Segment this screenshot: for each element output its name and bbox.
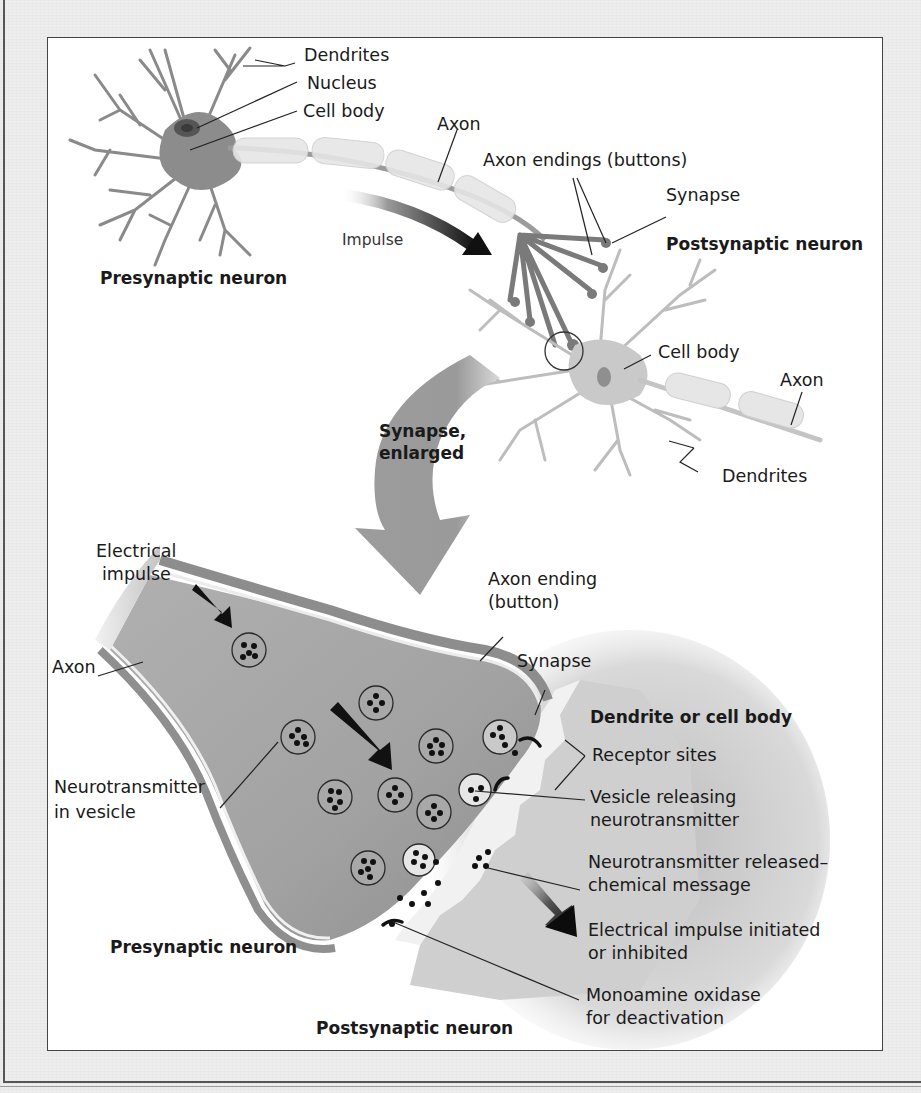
label-presynaptic-axon: Axon — [437, 114, 481, 135]
label-impulse-initiated-line1: Electrical impulse initiated — [588, 920, 820, 941]
label-synapse-top: Synapse — [666, 185, 740, 206]
label-impulse: Impulse — [342, 230, 403, 251]
label-axon-ending-line1: Axon ending — [488, 569, 597, 590]
label-nt-in-vesicle-line2: in vesicle — [54, 802, 136, 823]
label-presynaptic-dendrites: Dendrites — [304, 45, 389, 66]
label-nt-released-line2: chemical message — [588, 875, 751, 896]
label-receptor-sites: Receptor sites — [592, 745, 717, 766]
label-presynaptic-cell-body: Cell body — [303, 101, 385, 122]
label-electrical-impulse-line2: impulse — [102, 564, 171, 585]
label-vesicle-releasing-line2: neurotransmitter — [590, 810, 739, 831]
label-nt-released-line1: Neurotransmitter released– — [588, 852, 828, 873]
presynaptic-neuron-drawing — [70, 48, 250, 265]
label-postsynaptic-cell-body: Cell body — [658, 342, 740, 363]
title-presynaptic-neuron-top: Presynaptic neuron — [100, 268, 287, 289]
label-synapse-bottom: Synapse — [517, 651, 591, 672]
label-nt-in-vesicle-line1: Neurotransmitter — [54, 777, 205, 798]
label-vesicle-releasing-line1: Vesicle releasing — [590, 787, 736, 808]
synapse-enlarged-arrow-drawing — [355, 355, 500, 595]
label-presynaptic-nucleus: Nucleus — [307, 73, 377, 94]
label-postsynaptic-axon: Axon — [780, 370, 824, 391]
label-mao-line2: for deactivation — [586, 1008, 724, 1029]
axon-terminals-drawing — [510, 235, 611, 356]
label-mao-line1: Monoamine oxidase — [586, 985, 761, 1006]
label-synapse-enlarged-line2: enlarged — [379, 443, 464, 464]
label-dendrite-or-cell-body: Dendrite or cell body — [590, 707, 792, 728]
title-postsynaptic-neuron-bottom: Postsynaptic neuron — [316, 1018, 513, 1039]
label-axon-ending-line2: (button) — [488, 592, 559, 613]
title-presynaptic-neuron-bottom: Presynaptic neuron — [110, 937, 297, 958]
label-impulse-initiated-line2: or inhibited — [588, 943, 688, 964]
title-postsynaptic-neuron-top: Postsynaptic neuron — [666, 234, 863, 255]
label-axon-bottom: Axon — [52, 657, 96, 678]
label-axon-endings: Axon endings (buttons) — [483, 150, 687, 171]
label-synapse-enlarged-line1: Synapse, — [379, 421, 466, 442]
label-electrical-impulse-line1: Electrical — [96, 541, 176, 562]
label-postsynaptic-dendrites: Dendrites — [722, 466, 807, 487]
